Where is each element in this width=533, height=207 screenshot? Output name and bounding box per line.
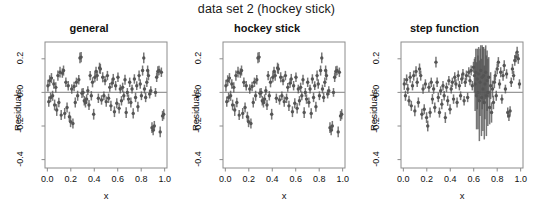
data-point bbox=[301, 78, 304, 81]
data-point bbox=[308, 87, 311, 90]
data-point bbox=[51, 94, 54, 97]
data-point bbox=[321, 87, 324, 90]
x-tick-label: 0.8 bbox=[484, 174, 510, 184]
data-point bbox=[281, 79, 284, 82]
data-point bbox=[249, 122, 252, 125]
data-point bbox=[432, 87, 435, 90]
data-point bbox=[419, 74, 422, 77]
x-tick-label: 0.6 bbox=[283, 174, 309, 184]
data-point bbox=[497, 60, 500, 63]
data-point bbox=[518, 82, 521, 85]
data-point bbox=[121, 86, 124, 89]
data-point bbox=[498, 82, 501, 85]
data-point bbox=[124, 111, 127, 114]
data-point bbox=[515, 50, 518, 53]
data-point bbox=[451, 81, 454, 84]
data-point bbox=[448, 108, 451, 111]
data-point bbox=[52, 82, 55, 85]
data-point bbox=[314, 105, 317, 108]
data-point bbox=[332, 91, 335, 94]
data-point bbox=[115, 102, 118, 105]
data-point bbox=[136, 105, 139, 108]
data-point bbox=[280, 94, 283, 97]
data-point bbox=[243, 106, 246, 109]
y-tick-label: -0.4 bbox=[371, 139, 381, 178]
data-point bbox=[142, 56, 145, 59]
data-point bbox=[440, 102, 443, 105]
data-point bbox=[269, 81, 272, 84]
data-point bbox=[293, 102, 296, 105]
data-point bbox=[108, 86, 111, 89]
data-point bbox=[307, 101, 310, 104]
data-point bbox=[295, 107, 298, 110]
data-point bbox=[99, 67, 102, 70]
data-point bbox=[423, 108, 426, 111]
data-point bbox=[109, 104, 112, 107]
data-point bbox=[426, 124, 429, 127]
data-point bbox=[310, 112, 313, 115]
data-point bbox=[76, 94, 79, 97]
data-point bbox=[505, 72, 508, 75]
data-point bbox=[62, 69, 65, 72]
data-point bbox=[292, 84, 295, 87]
data-point bbox=[237, 113, 240, 116]
data-point bbox=[259, 91, 262, 94]
data-point bbox=[299, 86, 302, 89]
data-point bbox=[437, 96, 440, 99]
data-point bbox=[464, 81, 467, 84]
data-point bbox=[298, 99, 301, 102]
data-point bbox=[454, 82, 457, 85]
data-point bbox=[410, 104, 413, 107]
data-point bbox=[50, 76, 53, 79]
data-point bbox=[300, 94, 303, 97]
data-point bbox=[427, 86, 430, 89]
data-point bbox=[417, 101, 420, 104]
data-point bbox=[88, 74, 91, 77]
data-point bbox=[154, 91, 157, 94]
data-point bbox=[257, 55, 260, 58]
data-point bbox=[278, 98, 281, 101]
data-point bbox=[406, 87, 409, 90]
data-point bbox=[64, 81, 67, 84]
data-point bbox=[414, 70, 417, 73]
data-point bbox=[147, 74, 150, 77]
data-point bbox=[327, 89, 330, 92]
data-point bbox=[263, 97, 266, 100]
panel-step-function: step function Residuals0.20.0-0.2-0.40.0… bbox=[356, 22, 533, 207]
data-point bbox=[229, 94, 232, 97]
data-point bbox=[144, 96, 147, 99]
data-point bbox=[130, 87, 133, 90]
data-point bbox=[415, 81, 418, 84]
data-point bbox=[405, 78, 408, 81]
panel-general: general Residuals0.20.0-0.2-0.40.00.20.4… bbox=[0, 22, 178, 207]
data-point bbox=[420, 113, 423, 116]
data-point bbox=[291, 110, 294, 113]
data-point bbox=[452, 97, 455, 100]
data-point bbox=[103, 79, 106, 82]
data-point bbox=[266, 74, 269, 77]
x-tick-label: 0.2 bbox=[414, 174, 440, 184]
data-point bbox=[275, 97, 278, 100]
data-point bbox=[428, 111, 431, 114]
data-point bbox=[283, 100, 286, 103]
data-point bbox=[441, 84, 444, 87]
data-point bbox=[135, 84, 138, 87]
data-series bbox=[403, 45, 522, 141]
data-point bbox=[65, 106, 68, 109]
data-point bbox=[447, 79, 450, 82]
plot-area-general: Residuals0.20.0-0.2-0.40.00.20.40.60.81.… bbox=[0, 38, 178, 207]
data-point bbox=[134, 96, 137, 99]
data-point bbox=[117, 107, 120, 110]
y-tick-label: -0.4 bbox=[15, 139, 25, 178]
data-point bbox=[305, 97, 308, 100]
data-point bbox=[430, 81, 433, 84]
data-point bbox=[106, 74, 109, 77]
data-point bbox=[455, 101, 458, 104]
data-point bbox=[162, 113, 165, 116]
data-point bbox=[274, 74, 277, 77]
data-point bbox=[139, 82, 142, 85]
panel-title-hockey-stick: hockey stick bbox=[178, 22, 356, 34]
data-point bbox=[77, 78, 80, 81]
figure-main-title: data set 2 (hockey stick) bbox=[0, 2, 533, 16]
data-point bbox=[145, 81, 148, 84]
